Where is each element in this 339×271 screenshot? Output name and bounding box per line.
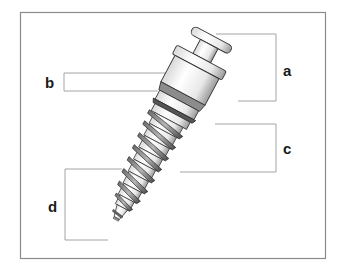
label-a: a bbox=[283, 63, 291, 78]
label-c: c bbox=[283, 141, 291, 156]
label-d: d bbox=[48, 199, 57, 214]
label-b: b bbox=[45, 75, 54, 90]
screw-diagram bbox=[0, 0, 339, 271]
